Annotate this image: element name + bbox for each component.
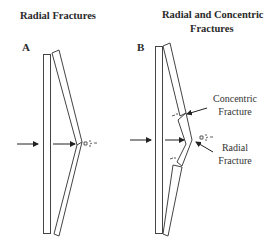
panel-b-label: B [137,41,144,53]
panel-a-drawing [44,50,83,236]
concentric-fracture-label: Concentric Fracture [205,92,265,118]
panel-b-lower-segment [163,165,182,236]
panel-a-label: A [22,41,30,53]
panel-b-title-line1: Radial and Concentric [162,9,264,20]
panel-b-force-arrows [130,108,213,152]
concentric-fracture-label-line1: Concentric [205,92,265,105]
fracture-diagram [0,0,273,250]
radial-fracture-label-line2: Fracture [210,154,260,167]
concentric-fracture-label-line2: Fracture [205,105,265,118]
concentric-fracture-pointer-arrow-icon [187,108,207,114]
radial-fracture-label-line1: Radial [210,141,260,154]
panel-a-deflected-pane-outer [59,50,82,236]
panel-b-upper-segment [163,43,186,116]
panel-b-title-line2: Fractures [190,23,234,34]
panel-b-original-pane [156,47,163,234]
panel-a-title: Radial Fractures [20,10,96,21]
panel-a-glass-fragments-icon [84,141,97,146]
panel-a-original-pane [44,55,51,234]
panel-b-lower-mid-segment [177,140,192,166]
radial-fracture-label: Radial Fracture [210,141,260,167]
